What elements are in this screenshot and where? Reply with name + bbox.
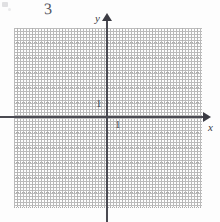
scan-speck-secondary-icon bbox=[8, 8, 11, 11]
scan-speck-icon bbox=[2, 2, 8, 7]
y-axis-label: y bbox=[95, 13, 100, 24]
x-axis-line bbox=[0, 116, 207, 118]
y-axis-tick-label-1: 1 bbox=[96, 98, 102, 109]
figure-canvas: 3 y x 1 1 bbox=[0, 0, 220, 222]
y-axis-line bbox=[106, 17, 108, 222]
x-axis-label: x bbox=[208, 122, 213, 133]
x-axis-tick-label-1: 1 bbox=[115, 119, 121, 130]
problem-number: 3 bbox=[44, 1, 53, 17]
y-axis-arrowhead-icon bbox=[102, 13, 112, 21]
grid-line-horizontal bbox=[14, 207, 202, 208]
